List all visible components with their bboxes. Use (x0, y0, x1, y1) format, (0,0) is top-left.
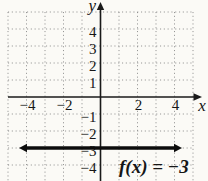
y-tick-label: 4 (89, 24, 97, 40)
graph-svg: yx−4−2244321−1−2−3−4f(x) = −3 (0, 0, 208, 181)
y-tick-label: −1 (81, 109, 97, 125)
coordinate-plane-figure: yx−4−2244321−1−2−3−4f(x) = −3 (0, 0, 208, 181)
y-tick-label: 2 (89, 58, 97, 74)
x-axis-letter: x (197, 96, 206, 115)
x-tick-label: 4 (172, 97, 180, 113)
x-tick-label: −4 (20, 97, 36, 113)
y-tick-label: −2 (81, 126, 97, 142)
y-tick-label: −4 (81, 160, 97, 176)
figure-background (0, 0, 208, 181)
y-tick-label: 3 (89, 41, 97, 57)
y-tick-label: −3 (81, 143, 97, 159)
function-equation-label: f(x) = −3 (119, 156, 189, 178)
x-tick-label: 2 (135, 97, 143, 113)
x-tick-label: −2 (57, 97, 73, 113)
y-axis-letter: y (86, 0, 96, 15)
y-tick-label: 1 (89, 75, 97, 91)
